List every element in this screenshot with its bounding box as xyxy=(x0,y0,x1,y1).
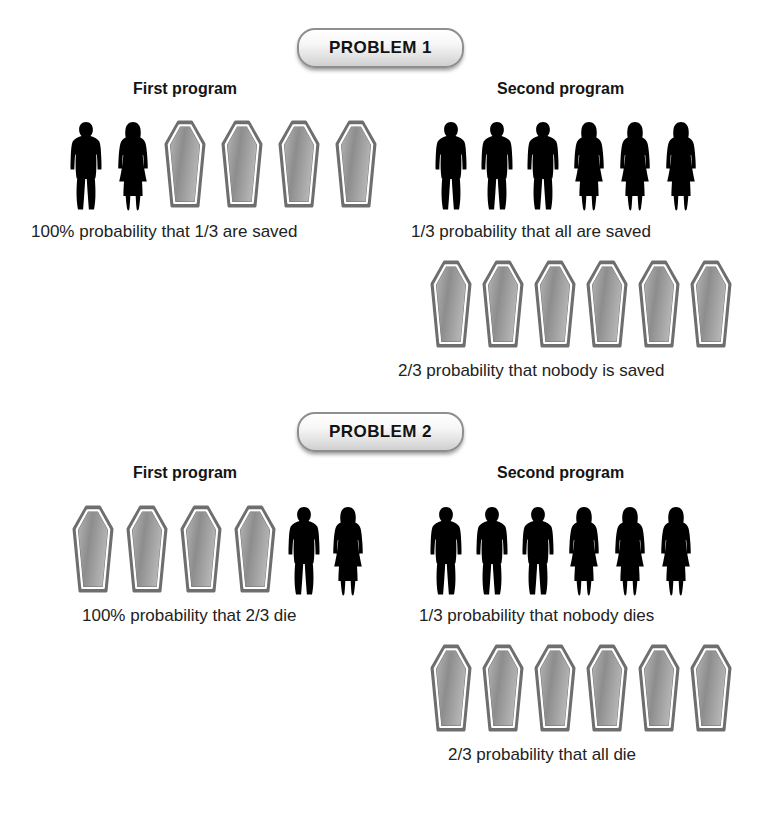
person-male-icon xyxy=(479,120,515,212)
problem-1-badge-label: PROBLEM 1 xyxy=(329,38,432,58)
problem-1-second-program-icon-row-2 xyxy=(428,260,734,352)
problem-2-second-program-caption-2: 2/3 probability that all die xyxy=(448,745,636,765)
coffin-icon xyxy=(276,120,322,212)
person-male-icon xyxy=(520,505,556,597)
coffin-icon xyxy=(428,644,474,736)
coffin-icon xyxy=(584,260,630,352)
person-female-icon xyxy=(617,120,653,212)
problem-1-second-program-icon-row-1 xyxy=(433,120,699,212)
person-female-icon xyxy=(663,120,699,212)
person-male-icon xyxy=(525,120,561,212)
person-female-icon xyxy=(566,505,602,597)
problem-1-second-program-caption-1: 1/3 probability that all are saved xyxy=(411,222,651,242)
problem-2-first-program-icon-row xyxy=(70,505,366,597)
coffin-icon xyxy=(480,644,526,736)
problem-2-second-program-caption-1: 1/3 probability that nobody dies xyxy=(419,606,654,626)
problem-1-first-program-caption: 100% probability that 1/3 are saved xyxy=(31,222,298,242)
problem-1-first-program-heading: First program xyxy=(133,80,237,98)
problem-1-first-program-icon-row xyxy=(68,120,379,212)
problem-2-badge: PROBLEM 2 xyxy=(297,412,464,452)
coffin-icon xyxy=(219,120,265,212)
problem-2-first-program-caption: 100% probability that 2/3 die xyxy=(82,606,297,626)
coffin-icon xyxy=(232,505,278,597)
coffin-icon xyxy=(70,505,116,597)
problem-2-badge-label: PROBLEM 2 xyxy=(329,422,432,442)
person-male-icon xyxy=(428,505,464,597)
person-male-icon xyxy=(68,120,104,212)
coffin-icon xyxy=(428,260,474,352)
coffin-icon xyxy=(124,505,170,597)
person-male-icon xyxy=(433,120,469,212)
person-male-icon xyxy=(286,505,322,597)
coffin-icon xyxy=(636,260,682,352)
problem-2-badge-container: PROBLEM 2 xyxy=(0,412,761,452)
coffin-icon xyxy=(333,120,379,212)
person-female-icon xyxy=(115,120,151,212)
coffin-icon xyxy=(162,120,208,212)
problem-1-badge-container: PROBLEM 1 xyxy=(0,28,761,68)
coffin-icon xyxy=(584,644,630,736)
problem-2-second-program-icon-row-2 xyxy=(428,644,734,736)
coffin-icon xyxy=(688,260,734,352)
person-female-icon xyxy=(330,505,366,597)
person-male-icon xyxy=(474,505,510,597)
coffin-icon xyxy=(178,505,224,597)
problem-2-second-program-icon-row-1 xyxy=(428,505,694,597)
person-female-icon xyxy=(571,120,607,212)
problem-1-badge: PROBLEM 1 xyxy=(297,28,464,68)
problem-1-second-program-caption-2: 2/3 probability that nobody is saved xyxy=(398,361,665,381)
problem-1-second-program-heading: Second program xyxy=(497,80,624,98)
problem-2-second-program-heading: Second program xyxy=(497,464,624,482)
coffin-icon xyxy=(532,644,578,736)
problem-2-first-program-heading: First program xyxy=(133,464,237,482)
person-female-icon xyxy=(658,505,694,597)
coffin-icon xyxy=(532,260,578,352)
coffin-icon xyxy=(480,260,526,352)
coffin-icon xyxy=(688,644,734,736)
coffin-icon xyxy=(636,644,682,736)
person-female-icon xyxy=(612,505,648,597)
